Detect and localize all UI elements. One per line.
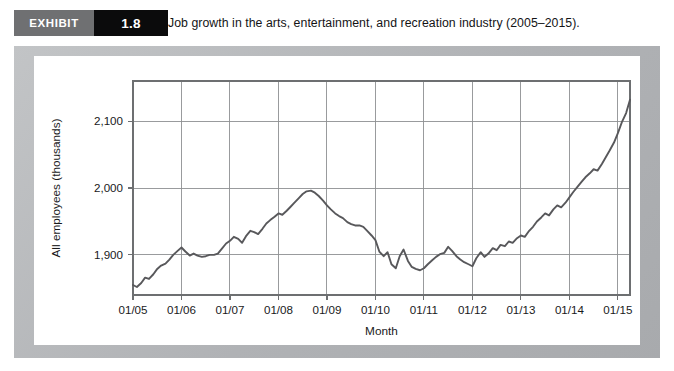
- exhibit-header: EXHIBIT 1.8: [14, 10, 168, 36]
- x-axis-tick-label: 01/10: [361, 303, 390, 316]
- exhibit-number-badge: 1.8: [94, 10, 168, 36]
- data-series-layer: [133, 100, 630, 287]
- x-axis-title: Month: [365, 324, 398, 338]
- x-axis-tick-label: 01/08: [264, 303, 293, 316]
- x-axis-tick-labels: 01/0501/0601/0701/0801/0901/1001/1101/12…: [118, 303, 632, 316]
- x-axis-tick-label: 01/13: [506, 303, 535, 316]
- grid-layer: [128, 81, 630, 300]
- exhibit-caption: Job growth in the arts, entertainment, a…: [168, 16, 580, 30]
- line-chart: 1,9002,0002,100 01/0501/0601/0701/0801/0…: [34, 56, 640, 345]
- x-axis-tick-label: 01/14: [555, 303, 585, 316]
- x-axis-tick-label: 01/07: [215, 303, 244, 316]
- exhibit-label: EXHIBIT: [14, 10, 94, 36]
- y-axis-tick-label: 2,100: [94, 114, 123, 127]
- y-axis-tick-label: 1,900: [94, 248, 123, 261]
- x-axis-tick-label: 01/15: [603, 303, 632, 316]
- y-axis-tick-label: 2,000: [94, 181, 123, 194]
- y-axis-title: All employees (thousands): [49, 118, 63, 257]
- x-axis-tick-label: 01/06: [167, 303, 196, 316]
- figure-frame: 1,9002,0002,100 01/0501/0601/0701/0801/0…: [14, 46, 660, 358]
- x-axis-tick-label: 01/12: [458, 303, 487, 316]
- x-axis-tick-label: 01/05: [118, 303, 147, 316]
- x-axis-tick-label: 01/11: [410, 303, 438, 316]
- figure-card: 1,9002,0002,100 01/0501/0601/0701/0801/0…: [34, 56, 640, 345]
- x-axis-tick-label: 01/09: [312, 303, 341, 316]
- series-line-all-employees: [133, 100, 630, 287]
- y-axis-tick-labels: 1,9002,0002,100: [94, 114, 123, 261]
- chart-canvas: 1,9002,0002,100 01/0501/0601/0701/0801/0…: [34, 56, 640, 345]
